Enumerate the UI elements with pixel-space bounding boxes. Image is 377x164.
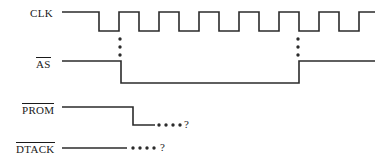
clk-waveform (62, 12, 375, 31)
dtack-ellipsis-dot (152, 146, 155, 149)
waveform-layer (0, 0, 377, 164)
prom-ellipsis-dot (157, 123, 160, 126)
prom-ellipsis-dot (164, 123, 167, 126)
prom-ellipsis-dot (178, 123, 181, 126)
as-waveform (62, 61, 375, 83)
right-vertical-ellipsis-dot (296, 37, 299, 40)
prom-ellipsis-dot (171, 123, 174, 126)
left-vertical-ellipsis-dot (118, 45, 121, 48)
timing-diagram-canvas: CLK AS PROM DTACK ? ? (0, 0, 377, 164)
dtack-ellipsis-dot (138, 146, 141, 149)
right-vertical-ellipsis-dot (296, 53, 299, 56)
right-vertical-ellipsis-dot (296, 45, 299, 48)
left-vertical-ellipsis-dot (118, 53, 121, 56)
dtack-ellipsis-dot (145, 146, 148, 149)
generated-waveforms (62, 12, 375, 150)
dtack-ellipsis-dot (131, 146, 134, 149)
prom-waveform (62, 107, 155, 125)
left-vertical-ellipsis-dot (118, 37, 121, 40)
